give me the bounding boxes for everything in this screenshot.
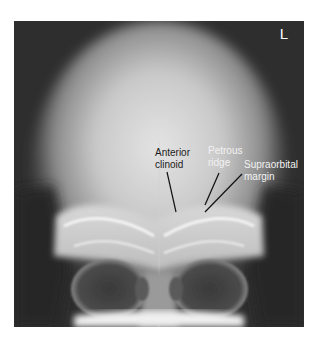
label-line: Petrous bbox=[208, 145, 242, 157]
right-orbit bbox=[172, 259, 248, 319]
right-ethmoid-cell bbox=[169, 277, 183, 301]
left-ethmoid-cell bbox=[135, 277, 149, 301]
label-line: clinoid bbox=[155, 159, 190, 171]
label-anterior-clinoid: Anterior clinoid bbox=[155, 147, 190, 171]
label-petrous-ridge: Petrous ridge bbox=[208, 145, 242, 169]
label-line: ridge bbox=[208, 157, 242, 169]
label-line: margin bbox=[244, 171, 298, 183]
radiograph-image: L Anterior clinoid Petrous ridge Supraor… bbox=[14, 21, 304, 327]
label-line: Supraorbital bbox=[244, 159, 298, 171]
label-supraorbital-margin: Supraorbital margin bbox=[244, 159, 298, 183]
label-line: Anterior bbox=[155, 147, 190, 159]
maxilla bbox=[74, 311, 244, 327]
side-marker-L: L bbox=[280, 25, 288, 43]
